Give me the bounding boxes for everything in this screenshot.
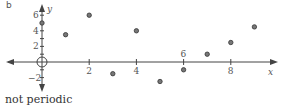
y-tick-label: −2 bbox=[28, 73, 41, 83]
data-point bbox=[63, 33, 67, 37]
data-point bbox=[181, 68, 185, 72]
chart-caption: not periodic bbox=[5, 93, 72, 106]
x-axis-label: x bbox=[268, 67, 273, 77]
x-tick-label: 4 bbox=[133, 66, 139, 76]
scatter-chart: b xy2468−2246 not periodic bbox=[0, 0, 284, 111]
data-point bbox=[111, 72, 115, 76]
data-point bbox=[252, 25, 256, 29]
x-axis-arrow-right-icon bbox=[270, 59, 278, 65]
y-axis-arrow-up-icon bbox=[39, 4, 45, 12]
data-point bbox=[205, 52, 209, 56]
data-point bbox=[87, 13, 91, 17]
x-tick-label: 6 bbox=[181, 49, 187, 59]
data-point bbox=[229, 40, 233, 44]
y-tick-label: 4 bbox=[33, 26, 39, 36]
x-axis-arrow-left-icon bbox=[6, 59, 14, 65]
x-tick-label: 8 bbox=[228, 66, 234, 76]
y-tick-label: 2 bbox=[33, 41, 39, 51]
y-tick-label: 6 bbox=[33, 10, 39, 20]
data-point bbox=[40, 21, 44, 25]
data-point bbox=[134, 29, 138, 33]
data-point bbox=[158, 79, 162, 83]
y-axis-label: y bbox=[46, 4, 53, 14]
x-tick-label: 2 bbox=[86, 66, 92, 76]
